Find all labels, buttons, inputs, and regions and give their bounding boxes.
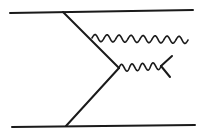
- upper-gluon: [92, 35, 188, 44]
- fork-lower-branch: [161, 66, 170, 77]
- feynman-diagram: [0, 0, 206, 134]
- fork-upper-branch: [161, 56, 172, 66]
- boson-lines: [92, 35, 188, 72]
- top-line: [10, 10, 193, 13]
- lower-gluon: [119, 63, 161, 71]
- bottom-line: [12, 125, 195, 127]
- lower-internal-line: [66, 68, 119, 126]
- fermion-lines: [10, 10, 195, 127]
